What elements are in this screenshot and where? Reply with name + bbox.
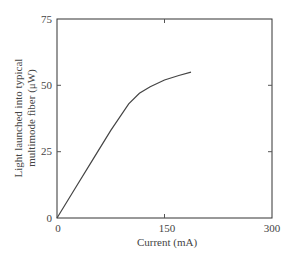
y-tick-50: 50 [41, 79, 53, 91]
y-axis-label-line1: Light launched into typical [12, 59, 24, 178]
plot-frame [57, 19, 272, 218]
x-tick-300: 300 [264, 222, 281, 234]
y-axis-label: Light launched into typical multimode fi… [12, 59, 38, 178]
y-axis-label-line2: multimode fiber (μW) [25, 69, 38, 167]
tick-marks [57, 19, 272, 218]
y-tick-75: 75 [41, 13, 53, 25]
chart: 75 50 25 0 0 150 300 Current (mA) Light … [0, 0, 290, 257]
y-tick-25: 25 [41, 145, 53, 157]
x-tick-150: 150 [159, 222, 176, 234]
y-tick-labels: 75 50 25 0 [41, 13, 53, 224]
x-axis-label: Current (mA) [137, 236, 198, 249]
data-line [57, 72, 191, 218]
y-tick-0: 0 [47, 212, 53, 224]
x-tick-0: 0 [55, 222, 61, 234]
x-tick-labels: 0 150 300 [55, 222, 281, 234]
